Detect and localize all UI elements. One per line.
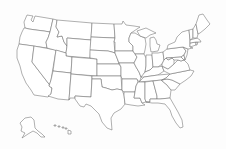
state-rhode-island[interactable]: Rhode Island bbox=[196, 42, 198, 45]
state-maine[interactable]: Maine bbox=[196, 14, 210, 34]
state-kansas[interactable]: Kansas bbox=[97, 64, 121, 76]
state-vermont[interactable]: Vermont bbox=[189, 29, 193, 40]
state-hawaii[interactable]: Hawaii bbox=[54, 125, 71, 134]
state-florida[interactable]: Florida bbox=[146, 98, 183, 128]
us-states-svg: WashingtonOregonCaliforniaNevadaIdahoMon… bbox=[0, 0, 226, 149]
state-north-dakota[interactable]: North Dakota bbox=[91, 23, 115, 38]
us-map: United States WashingtonOregonCalifornia… bbox=[0, 0, 226, 149]
state-colorado[interactable]: Colorado bbox=[71, 57, 97, 76]
state-alaska[interactable]: Alaska bbox=[20, 117, 45, 138]
state-iowa[interactable]: Iowa bbox=[115, 51, 137, 63]
state-wyoming[interactable]: Wyoming bbox=[66, 38, 91, 58]
